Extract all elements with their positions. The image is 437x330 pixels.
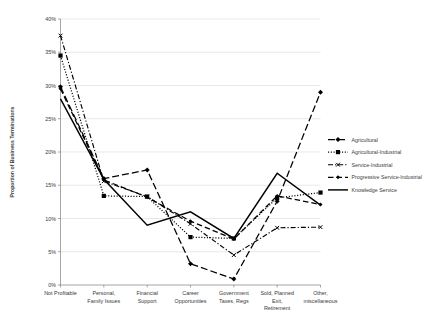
y-tick-label: 40% bbox=[45, 16, 56, 22]
series-line bbox=[61, 89, 321, 239]
legend-item-knowledge-service[interactable]: Knowledge Service bbox=[328, 187, 397, 193]
x-category-label: Personal,Family Issues bbox=[87, 290, 120, 304]
series-service-industrial bbox=[59, 34, 323, 257]
chart-legend[interactable]: AgriculturalAgricultural-IndustrialServi… bbox=[328, 137, 422, 193]
x-category-label: Sold, PlannedExit,Retirement bbox=[260, 290, 294, 311]
line-chart: 0%5%10%15%20%25%30%35%40% Not Profitable… bbox=[0, 0, 437, 330]
y-tick-label: 20% bbox=[45, 149, 56, 155]
x-category-label: GovernmentTaxes, Regs bbox=[219, 290, 249, 304]
x-category-label: Not Profitable bbox=[44, 290, 77, 296]
legend-item-service-industrial[interactable]: Service-Industrial bbox=[328, 162, 392, 168]
x-axis-category-labels: Not ProfitablePersonal,Family IssuesFina… bbox=[44, 290, 338, 311]
series-line bbox=[61, 87, 321, 279]
data-point-marker bbox=[336, 175, 340, 179]
y-tick-label: 25% bbox=[45, 116, 56, 122]
data-point-marker bbox=[232, 253, 236, 257]
y-tick-label: 0% bbox=[48, 282, 56, 288]
legend-item-progressive-service-industrial[interactable]: Progressive Service-Industrial bbox=[328, 174, 422, 180]
data-point-marker bbox=[275, 226, 279, 230]
legend-item-agricultural[interactable]: Agricultural bbox=[328, 137, 378, 143]
chart-container: 0%5%10%15%20%25%30%35%40% Not Profitable… bbox=[0, 0, 437, 330]
legend-item-label: Agricultural-Industrial bbox=[352, 149, 402, 155]
y-tick-label: 30% bbox=[45, 83, 56, 89]
y-tick-label: 10% bbox=[45, 216, 56, 222]
data-series bbox=[58, 34, 323, 282]
y-axis-title-text: Proportion of Business Terminations bbox=[9, 106, 15, 197]
x-category-label: CareerOpportunities bbox=[174, 290, 206, 304]
data-point-marker bbox=[188, 261, 193, 266]
data-point-marker bbox=[336, 137, 341, 142]
gridlines bbox=[61, 19, 321, 252]
legend-item-label: Progressive Service-Industrial bbox=[352, 174, 422, 180]
legend-item-label: Knowledge Service bbox=[352, 187, 397, 193]
legend-item-agricultural-industrial[interactable]: Agricultural-Industrial bbox=[328, 149, 401, 155]
legend-item-label: Service-Industrial bbox=[352, 162, 393, 168]
data-point-marker bbox=[58, 53, 62, 57]
data-point-marker bbox=[231, 277, 236, 282]
axes bbox=[58, 19, 321, 288]
legend-item-label: Agricultural bbox=[352, 137, 379, 143]
y-tick-label: 15% bbox=[45, 182, 56, 188]
y-axis-title: Proportion of Business Terminations bbox=[9, 106, 15, 197]
data-point-marker bbox=[188, 235, 192, 239]
y-tick-label: 5% bbox=[48, 249, 56, 255]
data-point-marker bbox=[336, 150, 340, 154]
y-tick-label: 35% bbox=[45, 49, 56, 55]
y-axis-tick-labels: 0%5%10%15%20%25%30%35%40% bbox=[45, 16, 56, 288]
data-point-marker bbox=[318, 90, 323, 95]
data-point-marker bbox=[145, 167, 150, 172]
x-category-label: Other,miscellaneous bbox=[303, 290, 337, 304]
data-point-marker bbox=[102, 194, 106, 198]
series-line bbox=[61, 56, 321, 239]
x-category-label: FinancialSupport bbox=[136, 290, 158, 304]
data-point-marker bbox=[318, 190, 322, 194]
